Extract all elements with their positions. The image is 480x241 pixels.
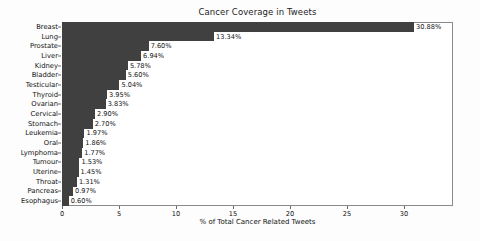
bar: [62, 138, 83, 148]
x-axis-tick-label: 20: [286, 210, 294, 218]
bar-value-label: 0.60%: [69, 197, 92, 205]
bar-value-label: 5.78%: [128, 62, 151, 70]
bar-row: 1.97%: [62, 129, 453, 139]
bar: [62, 90, 107, 100]
y-axis-tick-label: Ovarian: [0, 100, 58, 108]
bar: [62, 80, 119, 90]
bar-value-label: 0.97%: [73, 187, 96, 195]
y-axis-tick-label: Prostate: [0, 42, 58, 50]
y-axis-category-labels: BreastLungProstateLiverKidneyBladderTest…: [0, 22, 58, 206]
bar: [62, 177, 77, 187]
bar: [62, 167, 79, 177]
y-axis-tick-mark: [58, 152, 61, 153]
bar-value-label: 1.86%: [83, 139, 106, 147]
y-axis-tick-mark: [58, 75, 61, 76]
y-axis-tick-label: Liver: [0, 52, 58, 60]
bar-row: 1.31%: [62, 177, 453, 187]
x-axis-tick-mark: [176, 206, 177, 209]
y-axis-tick-mark: [58, 201, 61, 202]
bar-row: 2.70%: [62, 119, 453, 129]
bar-row: 1.86%: [62, 138, 453, 148]
bar-value-label: 5.04%: [119, 81, 142, 89]
x-axis-title: % of Total Cancer Related Tweets: [62, 218, 453, 226]
y-axis-tick-mark: [58, 46, 61, 47]
bar: [62, 51, 141, 61]
bar-value-label: 5.60%: [126, 71, 149, 79]
bar-row: 30.88%: [62, 22, 453, 32]
bar: [62, 187, 73, 197]
bar-row: 5.78%: [62, 61, 453, 71]
y-axis-tick-label: Kidney: [0, 62, 58, 70]
x-axis-tick-label: 25: [343, 210, 351, 218]
bar: [62, 22, 414, 32]
y-axis-tick-mark: [58, 36, 61, 37]
bar-row: 5.60%: [62, 70, 453, 80]
bar-row: 3.95%: [62, 90, 453, 100]
x-axis-tick-mark: [233, 206, 234, 209]
x-axis-tick-mark: [62, 206, 63, 209]
bar-value-label: 1.31%: [77, 178, 100, 186]
y-axis-tick-label: Breast: [0, 23, 58, 31]
y-axis-tick-mark: [58, 123, 61, 124]
bar-row: 7.60%: [62, 41, 453, 51]
bar-value-label: 2.90%: [95, 110, 118, 118]
chart-title: Cancer Coverage in Tweets: [62, 7, 453, 17]
y-axis-tick-mark: [58, 55, 61, 56]
bar-row: 3.83%: [62, 99, 453, 109]
y-axis-tick-label: Uterine: [0, 168, 58, 176]
bar-row: 1.53%: [62, 158, 453, 168]
x-axis-tick-mark: [404, 206, 405, 209]
bar: [62, 148, 82, 158]
bar-row: 0.97%: [62, 187, 453, 197]
x-axis-tick-label: 0: [60, 210, 64, 218]
bar-value-label: 13.34%: [214, 33, 241, 41]
bar-row: 0.60%: [62, 196, 453, 206]
bar-value-label: 1.97%: [84, 129, 107, 137]
bar-value-label: 3.83%: [106, 100, 129, 108]
bar-value-label: 3.95%: [107, 91, 130, 99]
y-axis-tick-label: Oral: [0, 139, 58, 147]
bar: [62, 196, 69, 206]
x-axis-tick-mark: [290, 206, 291, 209]
y-axis-tick-label: Lung: [0, 33, 58, 41]
x-axis-tick-label: 10: [172, 210, 180, 218]
y-axis-tick-mark: [58, 172, 61, 173]
y-axis-tick-label: Stomach: [0, 120, 58, 128]
bar-row: 1.45%: [62, 167, 453, 177]
y-axis-tick-mark: [58, 26, 61, 27]
bar-value-label: 1.45%: [79, 168, 102, 176]
bar-row: 1.77%: [62, 148, 453, 158]
y-axis-tick-label: Leukemia: [0, 129, 58, 137]
y-axis-tick-label: Thyroid: [0, 91, 58, 99]
bar: [62, 99, 106, 109]
y-axis-tick-label: Testicular: [0, 81, 58, 89]
bar: [62, 119, 93, 129]
bar-value-label: 1.77%: [82, 149, 105, 157]
y-axis-tick-mark: [58, 191, 61, 192]
y-axis-tick-mark: [58, 104, 61, 105]
y-axis-tick-label: Tumour: [0, 158, 58, 166]
x-axis-tick-label: 30: [400, 210, 408, 218]
x-axis-tick-label: 15: [229, 210, 237, 218]
y-axis-tick-label: Pancreas: [0, 187, 58, 195]
y-axis-tick-label: Throat: [0, 178, 58, 186]
x-axis-tick-mark: [119, 206, 120, 209]
y-axis-tick-mark: [58, 133, 61, 134]
bars-container: 30.88%13.34%7.60%6.94%5.78%5.60%5.04%3.9…: [62, 22, 453, 206]
y-axis-tick-label: Bladder: [0, 71, 58, 79]
y-axis-tick-mark: [58, 162, 61, 163]
y-axis-tick-mark: [58, 84, 61, 85]
y-axis-tick-mark: [58, 114, 61, 115]
chart-page: Cancer Coverage in Tweets BreastLungPros…: [0, 0, 480, 241]
y-axis-tick-mark: [58, 143, 61, 144]
x-axis-tick-label: 5: [117, 210, 121, 218]
bar-value-label: 2.70%: [93, 120, 116, 128]
bar: [62, 41, 149, 51]
bar-value-label: 7.60%: [149, 42, 172, 50]
y-axis-tick-mark: [58, 94, 61, 95]
bar: [62, 129, 84, 139]
bar: [62, 158, 79, 168]
bar-value-label: 30.88%: [414, 23, 441, 31]
y-axis-tick-label: Esophagus: [0, 197, 58, 205]
bar: [62, 109, 95, 119]
